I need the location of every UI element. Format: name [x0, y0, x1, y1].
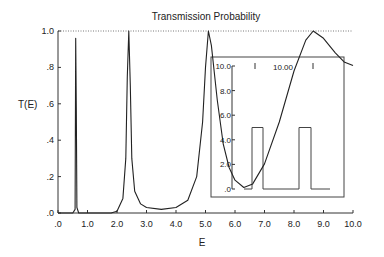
x-tick-label: 4.0 — [170, 219, 183, 229]
y-tick-label: .8 — [46, 62, 54, 72]
inset-y-tick-label: 6.0 — [220, 111, 232, 120]
y-tick-label: .2 — [46, 172, 54, 182]
inset-y-tick-label: 4.0 — [220, 136, 232, 145]
y-axis-label: T(E) — [18, 99, 37, 110]
x-tick-label: .0 — [54, 219, 62, 229]
y-tick-label: .0 — [46, 208, 54, 218]
inset-y-tick-label: 10.0 — [215, 62, 231, 71]
inset-y-tick-label: 8.0 — [220, 87, 232, 96]
x-tick-label: 6.0 — [229, 219, 242, 229]
x-tick-label: 3.0 — [140, 219, 153, 229]
inset-label: 10.00 — [273, 63, 294, 72]
x-tick-label: 8.0 — [288, 219, 301, 229]
x-tick-label: 7.0 — [258, 219, 271, 229]
x-tick-label: 2.0 — [111, 219, 124, 229]
x-tick-label: 9.0 — [317, 219, 330, 229]
plot-area: .01.02.03.04.05.06.07.08.09.010.0.0.2.4.… — [41, 26, 361, 229]
transmission-probability-chart: Transmission Probability .01.02.03.04.05… — [0, 0, 384, 257]
y-tick-label: .6 — [46, 99, 54, 109]
x-tick-label: 1.0 — [81, 219, 94, 229]
x-axis-label: E — [199, 237, 206, 248]
y-tick-label: 1.0 — [41, 26, 54, 36]
y-tick-label: .4 — [46, 135, 54, 145]
inset-y-tick-label: .0 — [224, 185, 231, 194]
x-tick-label: 5.0 — [199, 219, 212, 229]
chart-title: Transmission Probability — [152, 11, 261, 22]
x-tick-label: 10.0 — [344, 219, 362, 229]
